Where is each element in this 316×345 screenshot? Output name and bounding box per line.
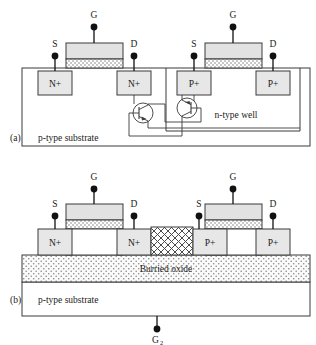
pmos-source-label-b: S <box>196 199 201 209</box>
nmos-source-terminal-b[interactable] <box>52 213 59 220</box>
nmos-drain-terminal-b[interactable] <box>131 213 138 220</box>
nmos-source-label-b: S <box>52 199 57 209</box>
pmos-drain-label-b: D <box>270 199 277 209</box>
pmos-drain-diffusion-label-b: P+ <box>268 238 279 248</box>
pmos-gate-label-a: G <box>230 10 237 20</box>
back-gate-sublabel: 2 <box>160 339 163 345</box>
nmos-drain-diffusion-label-a: N+ <box>128 79 140 89</box>
buried-oxide-label: Burried oxide <box>140 264 193 274</box>
pmos-gate-terminal-b[interactable] <box>230 186 237 193</box>
nmos-gate-oxide-a <box>66 59 123 68</box>
nmos-gate-label-a: G <box>91 10 98 20</box>
panel-a: G N+ S N+ D G P+ S P+ D <box>10 10 310 146</box>
nmos-drain-label-b: D <box>131 199 138 209</box>
pmos-drain-diffusion-label-a: P+ <box>268 79 279 89</box>
p-substrate-label-b: p-type substrate <box>38 295 98 305</box>
pmos-gate-oxide-a <box>205 59 262 68</box>
pmos-gate-metal-a <box>205 43 262 59</box>
pmos-source-diffusion-label-a: P+ <box>189 79 200 89</box>
p-substrate-label-a: p-type substrate <box>38 133 98 143</box>
nmos-gate-label-b: G <box>91 172 98 182</box>
pmos-source-terminal-b[interactable] <box>196 213 203 220</box>
nmos-gate-metal-b <box>66 204 123 220</box>
pmos-gate-oxide-b <box>205 220 262 229</box>
pmos-drain-terminal-b[interactable] <box>270 213 277 220</box>
sti-isolation-trench <box>151 227 193 255</box>
pmos-gate-metal-b <box>205 204 262 220</box>
figure-cmos-cross-sections: G N+ S N+ D G P+ S P+ D <box>0 0 316 345</box>
pmos-gate-terminal-a[interactable] <box>230 24 237 31</box>
pmos-drain-terminal-a[interactable] <box>270 53 277 60</box>
nmos-gate-terminal-a[interactable] <box>91 24 98 31</box>
pmos-source-terminal-a[interactable] <box>191 53 198 60</box>
panel-b: p-type substrate Burried oxide G 2 G N+ … <box>10 172 310 345</box>
nmos-gate-metal-a <box>66 43 123 59</box>
pmos-source-label-a: S <box>191 39 196 49</box>
nmos-gate-terminal-b[interactable] <box>91 186 98 193</box>
nmos-drain-terminal-a[interactable] <box>131 53 138 60</box>
nmos-body-b <box>66 229 123 255</box>
nmos-source-diffusion-label-b: N+ <box>49 238 61 248</box>
pmos-source-diffusion-label-b: P+ <box>205 238 216 248</box>
nmos-source-terminal-a[interactable] <box>52 53 59 60</box>
nmos-drain-diffusion-label-b: N+ <box>128 238 140 248</box>
nmos-drain-label-a: D <box>131 39 138 49</box>
nmos-gate-oxide-b <box>66 220 123 229</box>
pmos-drain-label-a: D <box>270 39 277 49</box>
panel-tag-b: (b) <box>10 295 21 306</box>
panel-tag-a: (a) <box>10 133 21 144</box>
pmos-gate-label-b: G <box>230 172 237 182</box>
nmos-source-diffusion-label-a: N+ <box>49 79 61 89</box>
n-well-label: n-type well <box>214 110 257 120</box>
figure-svg: G N+ S N+ D G P+ S P+ D <box>0 0 316 345</box>
back-gate-terminal[interactable] <box>154 326 161 333</box>
back-gate-label: G <box>152 335 159 345</box>
nmos-source-label-a: S <box>52 39 57 49</box>
